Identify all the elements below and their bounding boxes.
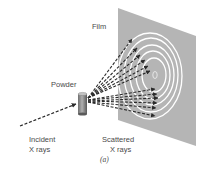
scattered-label-line1: Scattered [102,135,134,144]
powder-sample [78,92,87,115]
scattered-label-line2: X rays [110,145,131,154]
incident-beam [20,104,76,126]
figure-caption: (a) [100,155,109,164]
incident-label-line1: Incident [29,135,55,144]
incident-label-line2: X rays [29,145,50,154]
powder-label: Powder [51,80,76,89]
film-label: Film [92,22,106,31]
